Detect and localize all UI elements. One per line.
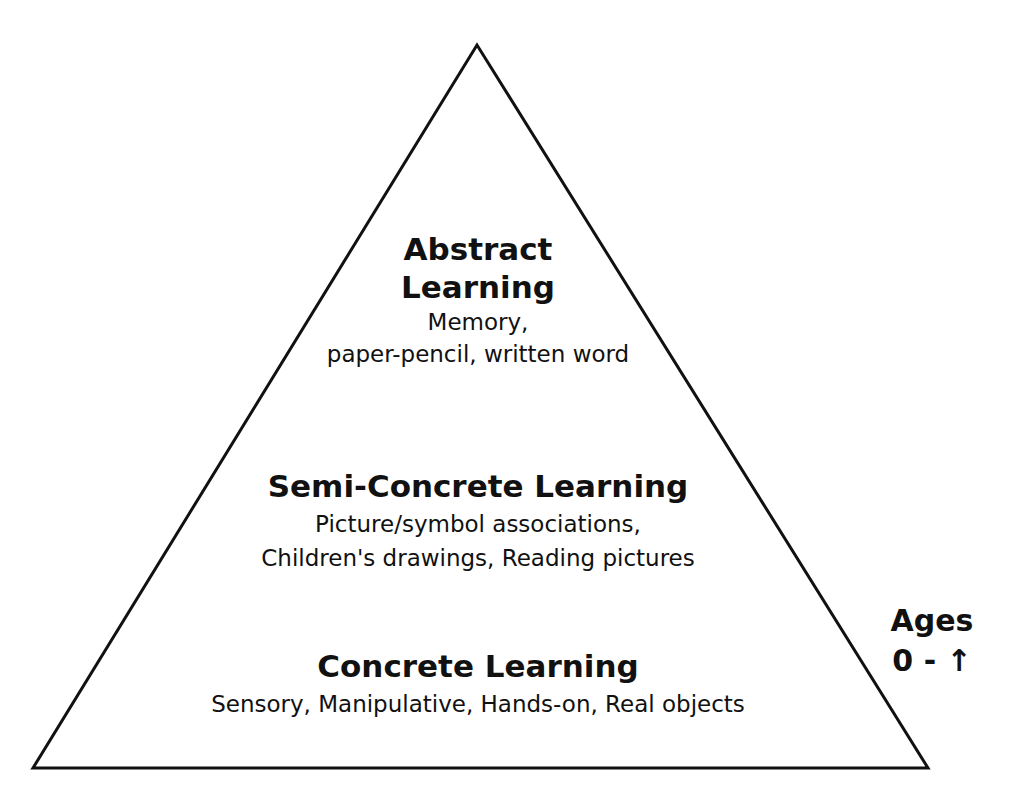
level-abstract-title-line2: Learning — [0, 268, 956, 306]
level-concrete-title: Concrete Learning — [0, 645, 956, 687]
ages-label-line1: Ages — [870, 601, 994, 641]
level-semi-concrete: Semi-Concrete Learning Picture/symbol as… — [0, 465, 956, 575]
level-concrete: Concrete Learning Sensory, Manipulative,… — [0, 645, 956, 721]
level-abstract-title: Abstract — [0, 230, 956, 268]
level-semi-concrete-title: Semi-Concrete Learning — [0, 465, 956, 507]
level-abstract-desc-2: paper-pencil, written word — [0, 338, 956, 370]
ages-label-line2: 0 - ↑ — [870, 641, 994, 681]
level-abstract: Abstract Learning Memory, paper-pencil, … — [0, 230, 956, 370]
level-concrete-desc-1: Sensory, Manipulative, Hands-on, Real ob… — [0, 687, 956, 721]
ages-label: Ages 0 - ↑ — [870, 601, 994, 681]
level-semi-concrete-desc-1: Picture/symbol associations, — [0, 507, 956, 541]
level-semi-concrete-desc-2: Children's drawings, Reading pictures — [0, 541, 956, 575]
level-abstract-desc-1: Memory, — [0, 306, 956, 338]
